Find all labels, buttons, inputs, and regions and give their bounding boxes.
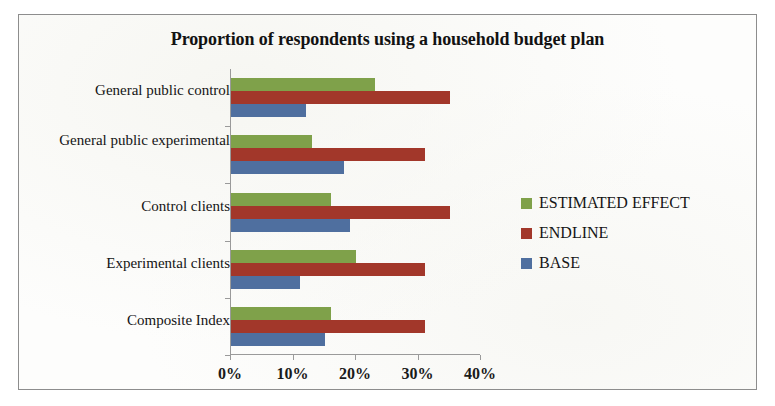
chart-legend: ESTIMATED EFFECT ENDLINE BASE: [521, 193, 751, 283]
bar-group: [231, 250, 481, 289]
bar: [231, 276, 300, 289]
y-axis-tick: [225, 126, 230, 127]
legend-item[interactable]: ENDLINE: [521, 223, 751, 243]
legend-swatch-icon: [521, 258, 532, 269]
x-axis-tick-label: 30%: [388, 365, 448, 383]
bar: [231, 219, 350, 232]
bar: [231, 250, 356, 263]
x-axis-tick-label: 40%: [450, 365, 510, 383]
legend-label: BASE: [539, 254, 580, 272]
y-axis-tick: [225, 241, 230, 242]
plot-area: 0%10%20%30%40%: [230, 69, 480, 355]
bar: [231, 193, 331, 206]
category-axis-labels: General public control General public ex…: [29, 69, 230, 355]
legend-swatch-icon: [521, 198, 532, 209]
legend-item[interactable]: BASE: [521, 253, 751, 273]
category-label: Experimental clients: [30, 255, 230, 272]
x-axis-tick: [293, 355, 294, 360]
bar-group: [231, 307, 481, 346]
x-axis-tick: [230, 355, 231, 360]
bar-group: [231, 135, 481, 174]
category-label: Control clients: [30, 198, 230, 215]
category-label: General public control: [30, 82, 230, 99]
bar: [231, 104, 306, 117]
category-label: Composite Index: [30, 312, 230, 329]
y-axis-tick: [225, 298, 230, 299]
bar: [231, 307, 331, 320]
bar: [231, 161, 344, 174]
x-axis-tick-label: 0%: [200, 365, 260, 383]
bar-group: [231, 193, 481, 232]
bar: [231, 206, 450, 219]
bar: [231, 78, 375, 91]
legend-label: ESTIMATED EFFECT: [539, 194, 690, 212]
chart-title: Proportion of respondents using a househ…: [19, 29, 756, 50]
bar: [231, 148, 425, 161]
chart-frame: Proportion of respondents using a househ…: [18, 14, 757, 390]
y-axis-tick: [225, 183, 230, 184]
bar: [231, 320, 425, 333]
legend-label: ENDLINE: [539, 224, 608, 242]
bar: [231, 91, 450, 104]
legend-swatch-icon: [521, 228, 532, 239]
x-axis-tick: [480, 355, 481, 360]
legend-item[interactable]: ESTIMATED EFFECT: [521, 193, 751, 213]
bar: [231, 135, 312, 148]
bar: [231, 263, 425, 276]
x-axis-tick: [355, 355, 356, 360]
category-label: General public experimental: [30, 132, 230, 149]
x-axis-tick-label: 10%: [263, 365, 323, 383]
x-axis-tick-label: 20%: [325, 365, 385, 383]
x-axis-tick: [418, 355, 419, 360]
bar-group: [231, 78, 481, 117]
bar: [231, 333, 325, 346]
